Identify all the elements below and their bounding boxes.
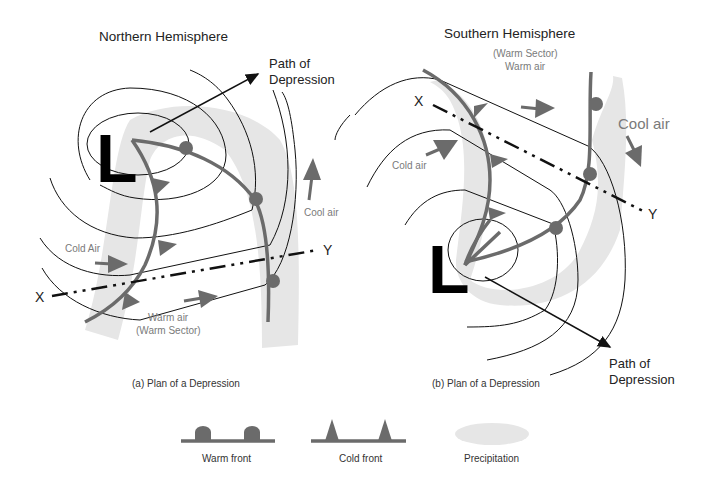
panel-b-path-label-2: Depression: [609, 372, 675, 387]
legend-cold-front: [311, 419, 406, 441]
legend-warm-front-label: Warm front: [202, 453, 251, 464]
panel-a-title: Northern Hemisphere: [99, 29, 228, 44]
panel-b-cold-air-label: Cold air: [392, 160, 427, 171]
panel-b-x-label: X: [414, 93, 424, 109]
low-pressure-letter: L: [428, 231, 470, 307]
panel-southern-hemisphere: L: [355, 70, 643, 380]
panel-b-caption: (b) Plan of a Depression: [432, 378, 540, 389]
low-pressure-letter: L: [96, 120, 138, 196]
panel-b-path-label: Path of: [609, 356, 651, 371]
panel-b-y-label: Y: [648, 206, 658, 222]
panel-b-warm-sector-label: (Warm Sector): [493, 48, 558, 59]
legend: [181, 419, 529, 445]
panel-b-warm-air-label: Warm air: [505, 61, 546, 72]
panel-a-warm-air-label: Warm air: [148, 312, 189, 323]
depression-diagram: L Northern Hemisphere Path of Depression…: [0, 0, 710, 489]
panel-b-cool-air-label: Cool air: [618, 115, 670, 132]
panel-a-caption: (a) Plan of a Depression: [132, 378, 240, 389]
legend-cold-front-label: Cold front: [339, 453, 383, 464]
panel-a-path-label: Path of: [269, 56, 311, 71]
panel-a-y-label: Y: [323, 242, 333, 258]
panel-a-path-label-2: Depression: [269, 72, 335, 87]
legend-precipitation: [455, 423, 529, 445]
panel-a-warm-sector-label: (Warm Sector): [136, 325, 201, 336]
legend-precipitation-label: Precipitation: [464, 453, 519, 464]
legend-warm-front: [181, 426, 275, 441]
panel-a-x-label: X: [35, 289, 45, 305]
panel-a-cool-air-label: Cool air: [304, 207, 339, 218]
panel-a-cold-air-label: Cold Air: [65, 243, 101, 254]
isobars: [355, 78, 625, 380]
panel-b-title: Southern Hemisphere: [444, 26, 575, 41]
